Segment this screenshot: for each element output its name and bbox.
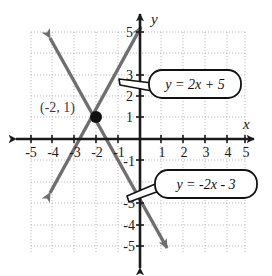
intersection-dot (90, 111, 102, 123)
x-tick-label: -3 (69, 145, 81, 160)
y-tick-label: -5 (123, 239, 135, 254)
x-tick-label: -5 (25, 145, 37, 160)
x-tick-label: 5 (243, 145, 250, 160)
x-tick-label: 1 (159, 145, 166, 160)
y-tick-label: 1 (126, 110, 133, 125)
x-tick-labels: -5 -4 -3 -2 -1 1 2 3 4 5 (25, 145, 249, 160)
line-y-equals-minus-2x-minus-3 (50, 38, 167, 248)
x-axis-letter: x (242, 116, 250, 132)
callout-line-2[interactable]: y = -2x - 3 (127, 170, 257, 202)
callout-1-leader (119, 79, 152, 91)
y-tick-label: 5 (126, 25, 133, 40)
y-tick-label: -4 (123, 218, 135, 233)
intersection-point-label: (-2, 1) (40, 100, 75, 116)
y-tick-label: 2 (126, 89, 133, 104)
callout-1-label: y = 2x + 5 (163, 77, 224, 92)
x-tick-label: 2 (181, 145, 188, 160)
callout-2-label: y = -2x - 3 (174, 177, 235, 192)
x-tick-label: 4 (225, 145, 232, 160)
y-tick-label: -1 (123, 154, 135, 169)
x-tick-label: -2 (91, 145, 103, 160)
coordinate-graph-figure: -5 -4 -3 -2 -1 1 2 3 4 5 5 3 2 1 -1 -3 -… (0, 0, 272, 276)
plotted-lines (50, 27, 167, 248)
x-tick-label: 3 (203, 145, 210, 160)
grid (31, 32, 245, 253)
y-axis-letter: y (149, 11, 158, 27)
x-tick-label: -4 (47, 145, 59, 160)
